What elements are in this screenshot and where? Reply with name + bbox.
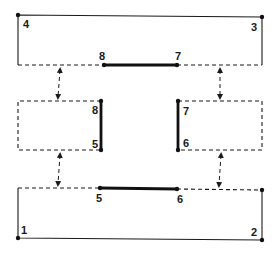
arrow-middle-left-to-bottom [58,155,60,184]
middle-left-frame: 8 5 [18,99,103,152]
node-1 [16,236,20,240]
top-frame-outline [18,15,262,65]
label-7-top: 7 [175,50,181,62]
node-5-bot [98,186,102,190]
node-3 [260,15,264,19]
label-4: 4 [23,18,30,30]
node-5-mid [99,148,103,152]
node-7-top [175,63,179,67]
label-3: 3 [251,21,257,33]
middle-right-frame: 7 6 [176,99,262,152]
label-8-mid: 8 [92,104,98,116]
diagram-canvas: 4 3 8 7 8 5 7 6 5 6 1 2 [0,0,278,254]
node-4 [16,13,20,17]
bottom-frame: 5 6 1 2 [16,186,264,242]
label-8-top: 8 [99,50,105,62]
bottom-frame-dashed-right [177,189,262,190]
label-6-bot: 6 [177,193,183,205]
label-7-mid: 7 [183,105,189,117]
label-5-mid: 5 [92,138,98,150]
node-7-mid [176,99,180,103]
label-1: 1 [21,224,27,236]
middle-left-frame-outline [18,101,101,150]
middle-right-frame-outline [178,101,262,150]
connector-arrows [58,70,221,185]
arrow-middle-right-to-bottom [219,155,221,185]
label-5-bot: 5 [96,192,102,204]
node-2 [260,238,264,242]
label-6-mid: 6 [183,137,189,149]
arrow-top-to-middle-left [58,70,60,97]
top-frame: 4 3 8 7 [16,13,264,67]
member-5-6 [100,188,177,189]
node-8-top [102,63,106,67]
node-6-bot [175,187,179,191]
bottom-frame-outline [18,188,262,240]
node-bottom-right-top [260,188,264,192]
node-6-mid [176,148,180,152]
label-2: 2 [251,226,257,238]
node-8-mid [99,99,103,103]
